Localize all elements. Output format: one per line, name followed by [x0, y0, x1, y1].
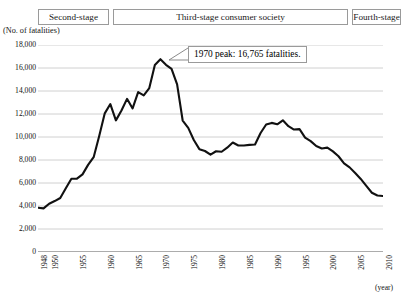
peak-annotation-label: 1970 peak: 16,765 fatalities. — [188, 46, 307, 63]
x-tick-label-2010: 2010 — [386, 255, 393, 270]
stage-band: Second-stageThird-stage consumer society… — [0, 9, 401, 25]
y-tick-label-14000: 14,000 — [2, 87, 36, 95]
x-tick-label-1980: 1980 — [219, 255, 226, 270]
gridlines — [38, 45, 383, 252]
x-tick-label-1948: 1948 — [41, 255, 48, 270]
y-tick-label-8000: 8,000 — [2, 156, 36, 164]
data-line-series — [38, 59, 383, 208]
stage-box-3: Fourth-stage — [352, 9, 401, 25]
y-tick-label-4000: 4,000 — [2, 202, 36, 210]
x-tick-label-2000: 2000 — [330, 255, 337, 270]
y-tick-label-6000: 6,000 — [2, 179, 36, 187]
stage-box-2: Third-stage consumer society — [113, 9, 348, 25]
x-tick-label-1985: 1985 — [247, 255, 254, 270]
x-tick-label-1975: 1975 — [191, 255, 198, 270]
annotation-leader-line — [168, 46, 190, 62]
x-tick-label-2005: 2005 — [358, 255, 365, 270]
y-tick-label-18000: 18,000 — [2, 41, 36, 49]
x-axis-tick-labels: 1948195019551960196519701975198019851990… — [0, 255, 401, 295]
y-tick-label-2000: 2,000 — [2, 225, 36, 233]
x-axis-unit-label: (year) — [375, 283, 393, 292]
x-tick-label-1970: 1970 — [163, 255, 170, 270]
x-tick-label-1990: 1990 — [275, 255, 282, 270]
y-tick-label-16000: 16,000 — [2, 64, 36, 72]
plot-area — [38, 45, 383, 252]
x-tick-label-1955: 1955 — [80, 255, 87, 270]
chart-svg — [38, 45, 383, 252]
chart-page: Second-stageThird-stage consumer society… — [0, 0, 401, 296]
x-tick-label-1995: 1995 — [303, 255, 310, 270]
y-tick-label-10000: 10,000 — [2, 133, 36, 141]
x-tick-label-1950: 1950 — [52, 255, 59, 270]
y-tick-label-12000: 12,000 — [2, 110, 36, 118]
x-tick-label-1965: 1965 — [136, 255, 143, 270]
stage-box-1: Second-stage — [38, 9, 109, 25]
y-axis-tick-labels: 02,0004,0006,0008,00010,00012,00014,0001… — [0, 0, 36, 296]
x-tick-label-1960: 1960 — [108, 255, 115, 270]
